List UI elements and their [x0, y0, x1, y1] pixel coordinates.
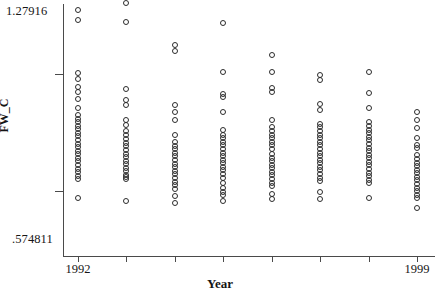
- data-point: [366, 195, 372, 201]
- scatter-plot: 1.27916 .574811 FW_C Year 19921999: [0, 0, 440, 293]
- data-point: [75, 195, 81, 201]
- data-point: [123, 198, 129, 204]
- data-point: [172, 109, 178, 115]
- data-point: [75, 76, 81, 82]
- data-point: [414, 135, 420, 141]
- data-point: [172, 193, 178, 199]
- data-point: [172, 48, 178, 54]
- data-point: [123, 86, 129, 92]
- data-point: [269, 183, 275, 189]
- data-point: [172, 117, 178, 123]
- data-point: [269, 52, 275, 58]
- data-point: [317, 189, 323, 195]
- data-point: [123, 176, 129, 182]
- data-point: [123, 0, 129, 6]
- data-point: [317, 107, 323, 113]
- data-point: [269, 196, 275, 202]
- data-point: [366, 180, 372, 186]
- data-point: [317, 178, 323, 184]
- data-point: [414, 117, 420, 123]
- data-point: [172, 200, 178, 206]
- data-point: [220, 94, 226, 100]
- data-point: [172, 186, 178, 192]
- data-point: [414, 109, 420, 115]
- data-point: [366, 90, 372, 96]
- data-point: [317, 77, 323, 83]
- data-point: [220, 69, 226, 75]
- data-point: [220, 109, 226, 115]
- data-point: [414, 205, 420, 211]
- data-point: [317, 196, 323, 202]
- data-point: [366, 69, 372, 75]
- data-point: [172, 132, 178, 138]
- data-point: [366, 105, 372, 111]
- data-point: [414, 125, 420, 131]
- data-point: [75, 176, 81, 182]
- data-point: [123, 102, 129, 108]
- data-point: [123, 19, 129, 25]
- data-point: [414, 195, 420, 201]
- data-point: [172, 102, 178, 108]
- data-point: [75, 17, 81, 23]
- data-point: [414, 145, 420, 151]
- data-point: [75, 89, 81, 95]
- data-points-layer: [0, 0, 440, 293]
- data-point: [75, 7, 81, 13]
- data-point: [269, 117, 275, 123]
- data-point: [75, 96, 81, 102]
- data-point: [269, 89, 275, 95]
- data-point: [220, 20, 226, 26]
- data-point: [75, 105, 81, 111]
- data-point: [220, 198, 226, 204]
- data-point: [269, 69, 275, 75]
